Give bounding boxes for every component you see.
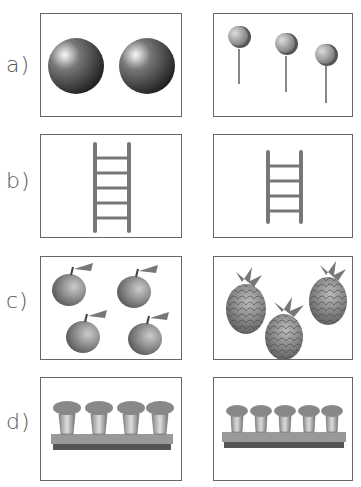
balls-image	[41, 14, 183, 118]
four-flower-pots-image	[41, 378, 183, 482]
row-label-c: c)	[6, 288, 29, 313]
row-label-a: a)	[6, 52, 30, 77]
row-label-d: d)	[6, 409, 31, 434]
five-flower-pots-image	[214, 378, 354, 482]
box-c-right[interactable]	[213, 256, 353, 360]
short-ladder-image	[214, 135, 354, 239]
lollipops-image	[214, 14, 354, 118]
box-b-left[interactable]	[40, 134, 182, 238]
box-d-left[interactable]	[40, 377, 182, 481]
row-label-b: b)	[6, 168, 31, 193]
box-c-left[interactable]	[40, 256, 182, 360]
pineapples-image	[214, 257, 354, 361]
tall-ladder-image	[41, 135, 183, 239]
apples-image	[41, 257, 183, 361]
box-a-left[interactable]	[40, 13, 182, 117]
box-d-right[interactable]	[213, 377, 353, 481]
box-b-right[interactable]	[213, 134, 353, 238]
box-a-right[interactable]	[213, 13, 353, 117]
